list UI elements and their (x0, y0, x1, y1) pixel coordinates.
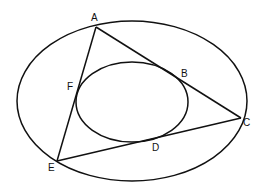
label-f: F (67, 81, 73, 92)
label-b: B (181, 68, 188, 79)
label-c: C (243, 117, 250, 128)
side-ea (57, 27, 96, 161)
label-a: A (91, 12, 98, 23)
side-ac (96, 27, 241, 118)
ellipse-triangle-diagram: A B C D E F (0, 0, 262, 190)
label-d: D (152, 142, 159, 153)
outer-ellipse (17, 21, 247, 181)
label-e: E (48, 162, 55, 173)
